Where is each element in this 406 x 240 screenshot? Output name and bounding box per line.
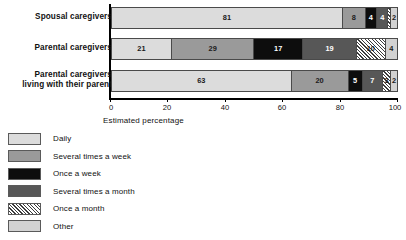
legend-label: Daily — [53, 134, 71, 143]
bar-segment-several-times-a-month: 7 — [363, 71, 383, 91]
bar-segment-value: 21 — [137, 45, 145, 53]
bar-segment-value: 29 — [209, 45, 217, 53]
legend-swatch-daily — [8, 133, 41, 145]
category-label-parental-caregivers: Parental caregivers — [35, 43, 112, 53]
legend-swatch-once-a-month — [8, 203, 41, 215]
bar-segment-value: 19 — [325, 45, 333, 53]
legend-item-once-a-month: Once a month — [8, 200, 398, 218]
x-axis-tick — [225, 98, 226, 102]
bar-segment-once-a-week: 4 — [366, 8, 377, 28]
x-axis-title: Estimated percentage — [103, 116, 184, 125]
bar-segment-value: 5 — [353, 77, 357, 85]
x-axis-tick — [397, 98, 398, 102]
bar-segment-other: 2 — [391, 8, 397, 28]
x-axis-tick-label: 40 — [221, 103, 229, 112]
legend: Daily Several times a week Once a week S… — [8, 130, 398, 235]
x-axis-tick-label: 20 — [163, 103, 171, 112]
x-axis-tick — [110, 98, 111, 102]
bar-segment-value: 2 — [392, 14, 396, 22]
bar-segment-several-times-a-week: 20 — [292, 71, 349, 91]
x-axis-line — [109, 98, 398, 100]
legend-swatch-other — [8, 220, 41, 232]
x-axis-tick-label: 100 — [389, 103, 402, 112]
bar-segment-value: 3 — [384, 77, 388, 85]
bar-segment-once-a-month: 10 — [357, 39, 386, 59]
bar-segment-once-a-month: 3 — [383, 71, 392, 91]
bar-segment-value: 8 — [352, 14, 356, 22]
legend-item-daily: Daily — [8, 130, 398, 148]
stacked-bar-spousal-caregivers: 81 8 4 4 2 — [111, 7, 398, 29]
bar-segment-value: 17 — [274, 45, 282, 53]
legend-item-other: Other — [8, 218, 398, 236]
bar-segment-value: 4 — [389, 45, 393, 53]
legend-item-several-times-a-month: Several times a month — [8, 183, 398, 201]
x-axis-tick — [167, 98, 168, 102]
x-axis-tick-label: 60 — [278, 103, 286, 112]
bar-segment-daily: 63 — [112, 71, 292, 91]
bar-segment-daily: 21 — [112, 39, 172, 59]
bar-segment-daily: 81 — [112, 8, 343, 28]
bar-segment-value: 20 — [315, 77, 323, 85]
x-axis-tick — [282, 98, 283, 102]
bar-segment-several-times-a-month: 19 — [303, 39, 357, 59]
bar-segment-value: 63 — [197, 77, 205, 85]
x-axis-tick-label: 80 — [336, 103, 344, 112]
bar-segment-value: 2 — [392, 77, 396, 85]
bar-segment-value: 81 — [223, 14, 231, 22]
legend-swatch-several-times-a-week — [8, 150, 41, 162]
bar-segment-value: 7 — [370, 77, 374, 85]
legend-label: Several times a week — [53, 152, 131, 161]
plot-area: Spousal caregivers Parental caregivers P… — [0, 0, 406, 108]
legend-swatch-several-times-a-month — [8, 185, 41, 197]
legend-label: Several times a month — [53, 187, 135, 196]
x-axis-tick-label: 0 — [109, 103, 113, 112]
bar-segment-value: 4 — [380, 14, 384, 22]
bar-segment-once-a-week: 5 — [349, 71, 363, 91]
bar-segment-once-a-week: 17 — [254, 39, 302, 59]
stacked-bar-parental-caregivers: 21 29 17 19 10 4 — [111, 38, 398, 60]
bar-segment-several-times-a-month: 4 — [377, 8, 388, 28]
bar-segment-several-times-a-week: 29 — [172, 39, 255, 59]
category-label-parental-caregivers-living-with-parent: Parental caregivers living with their pa… — [22, 70, 112, 89]
legend-item-once-a-week: Once a week — [8, 165, 398, 183]
legend-item-several-times-a-week: Several times a week — [8, 148, 398, 166]
legend-label: Other — [53, 222, 74, 231]
stacked-bar-parental-caregivers-living-with-parent: 63 20 5 7 3 2 — [111, 70, 398, 92]
bar-segment-other: 4 — [386, 39, 397, 59]
legend-swatch-once-a-week — [8, 168, 41, 180]
bar-segment-other: 2 — [391, 71, 397, 91]
bar-segment-value: 10 — [367, 45, 375, 53]
bar-segment-several-times-a-week: 8 — [343, 8, 366, 28]
category-label-spousal-caregivers: Spousal caregivers — [35, 12, 112, 22]
x-axis-tick — [340, 98, 341, 102]
legend-label: Once a month — [53, 204, 104, 213]
stacked-bar-chart: Spousal caregivers Parental caregivers P… — [0, 0, 406, 240]
bar-segment-value: 4 — [369, 14, 373, 22]
legend-label: Once a week — [53, 169, 101, 178]
